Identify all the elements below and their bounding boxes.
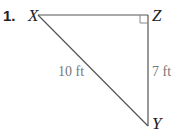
problem-number: 1. [3,7,16,24]
right-angle-marker [140,15,148,23]
vertex-z-label: Z [152,6,162,25]
vertex-y-label: Y [152,114,163,133]
vertex-x-label: X [27,6,39,25]
leg-zy-length-label: 7 ft [152,64,171,79]
triangle [38,15,148,126]
side-xy [38,15,148,126]
triangle-diagram: 1. X Z Y 10 ft 7 ft [0,0,177,133]
hypotenuse-length-label: 10 ft [58,64,84,79]
